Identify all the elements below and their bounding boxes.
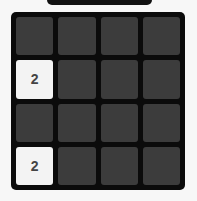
tile-r1-c3 (143, 60, 180, 98)
tile-r0-c1 (58, 17, 95, 55)
header-bar (47, 0, 152, 5)
tile-r1-c0: 2 (16, 60, 53, 98)
tile-r2-c0 (16, 104, 53, 142)
tile-r2-c2 (101, 104, 138, 142)
tile-r3-c0: 2 (16, 147, 53, 185)
tile-r3-c2 (101, 147, 138, 185)
tile-r3-c1 (58, 147, 95, 185)
tile-r2-c1 (58, 104, 95, 142)
tile-r2-c3 (143, 104, 180, 142)
tile-r0-c3 (143, 17, 180, 55)
tile-r0-c0 (16, 17, 53, 55)
tile-r1-c1 (58, 60, 95, 98)
tile-r0-c2 (101, 17, 138, 55)
game-board: 2 2 (11, 12, 185, 190)
tile-r1-c2 (101, 60, 138, 98)
tile-r3-c3 (143, 147, 180, 185)
